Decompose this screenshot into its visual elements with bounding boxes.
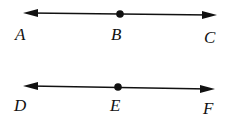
lines-diagram: A B C D E F <box>0 0 235 133</box>
point-b-dot <box>116 10 124 18</box>
line-ac: A B C <box>14 9 217 47</box>
label-f: F <box>202 99 214 118</box>
label-d: D <box>13 96 27 115</box>
label-b: B <box>111 25 122 44</box>
arrow-left-icon <box>23 9 38 17</box>
arrow-left-icon <box>23 82 38 90</box>
label-a: A <box>14 25 26 44</box>
label-c: C <box>204 28 216 47</box>
label-e: E <box>109 96 121 115</box>
point-e-dot <box>114 83 122 91</box>
arrow-right-icon <box>202 11 217 19</box>
line-df: D E F <box>13 82 215 118</box>
arrow-right-icon <box>200 85 215 93</box>
